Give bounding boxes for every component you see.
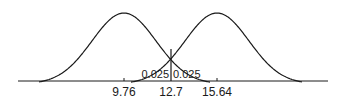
left-tail-area-label: 0.025 (141, 68, 169, 80)
tick-label-left-mean: 9.76 (112, 85, 136, 99)
tick-label-critical-value: 12.7 (159, 85, 183, 99)
diagram-canvas: 0.025 0.025 9.76 12.7 15.64 (0, 0, 342, 99)
normal-curves-figure: 0.025 0.025 9.76 12.7 15.64 (0, 0, 342, 99)
tick-label-right-mean: 15.64 (202, 85, 232, 99)
right-tail-area-label: 0.025 (173, 68, 201, 80)
